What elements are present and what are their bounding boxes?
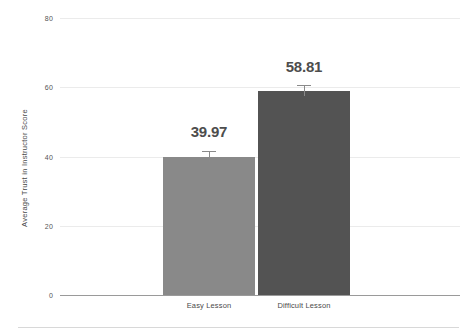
gridline-80	[60, 18, 460, 19]
footer-divider	[18, 327, 459, 328]
plot-area: 80 60 40 20 0 39.97 58.81	[60, 18, 460, 295]
value-label-difficult-lesson: 58.81	[286, 58, 323, 75]
x-tick-label-easy-lesson: Easy Lesson	[187, 301, 232, 310]
error-bar-cap-easy-lesson	[202, 151, 216, 152]
bar-chart-figure: Average Trust in Instructor Score 80 60 …	[0, 0, 474, 335]
y-axis-title: Average Trust in Instructor Score	[20, 109, 29, 227]
error-bar-cap-difficult-lesson	[297, 85, 311, 86]
gridline-60	[60, 87, 460, 88]
value-label-easy-lesson: 39.97	[191, 123, 228, 140]
bar-difficult-lesson[interactable]	[258, 91, 350, 295]
y-tick-label-40: 40	[45, 153, 53, 160]
axis-baseline	[60, 295, 460, 296]
y-tick-label-0: 0	[49, 292, 53, 299]
y-tick-label-60: 60	[45, 84, 53, 91]
error-bar-difficult-lesson	[304, 86, 305, 96]
x-tick-label-difficult-lesson: Difficult Lesson	[277, 301, 330, 310]
bar-easy-lesson[interactable]	[163, 157, 255, 295]
error-bar-easy-lesson	[209, 152, 210, 162]
y-tick-label-80: 80	[45, 15, 53, 22]
y-tick-label-20: 20	[45, 222, 53, 229]
